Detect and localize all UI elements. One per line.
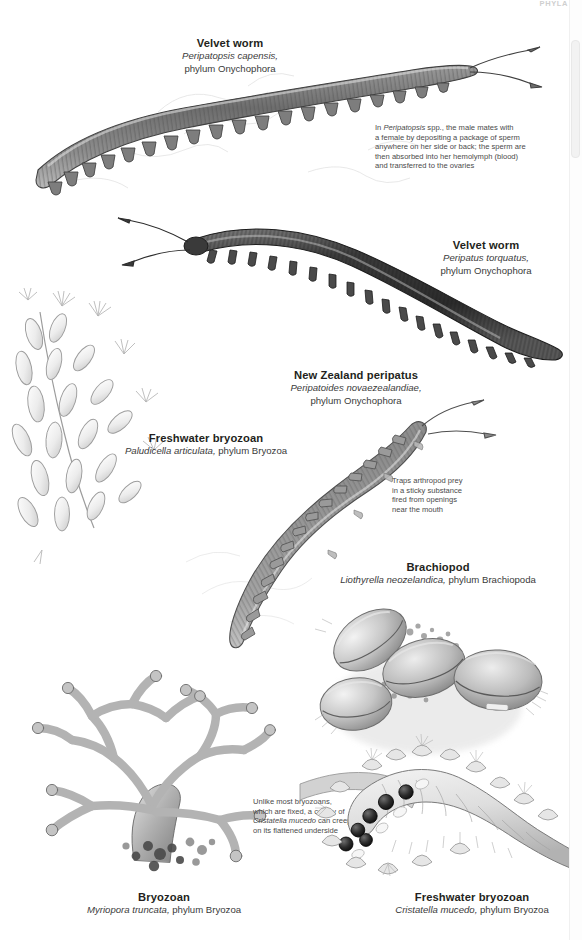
encyclopedia-page: PHYLA — [0, 0, 582, 940]
label-common-name: Freshwater bryozoan — [372, 890, 572, 904]
running-head: PHYLA — [478, 0, 568, 8]
annotation-line: near the mouth — [392, 505, 512, 515]
label-species: Cristatella mucedo, phylum Bryozoa — [372, 904, 572, 917]
annotation-peripatopsis-mating: In Peripatopsis spp., the male mates wit… — [375, 123, 535, 171]
annotation-line: In Peripatopsis spp., the male mates wit… — [375, 123, 535, 133]
label-common-name: New Zealand peripatus — [258, 368, 454, 382]
annotation-line: then absorbed into her hemolymph (blood) — [375, 152, 535, 162]
label-common-name: Velvet worm — [400, 238, 572, 252]
label-species: Liothyrella neozelandica, phylum Brachio… — [318, 574, 558, 587]
cristatella-illustration — [300, 736, 582, 886]
annotation-line: and transferred to the ovaries — [375, 161, 535, 171]
label-species: Peripatus torquatus, — [400, 252, 572, 265]
label-common-name: Bryozoan — [44, 890, 284, 904]
annotation-line: fired from openings — [392, 495, 512, 505]
annotation-line: Traps arthropod prey — [392, 476, 512, 486]
label-species: Myriopora truncata, phylum Bryozoa — [44, 904, 284, 917]
vertical-scrollbar[interactable] — [569, 0, 582, 940]
label-bryozoan-myriopora: Bryozoan Myriopora truncata, phylum Bryo… — [44, 890, 284, 917]
scrollbar-thumb[interactable] — [571, 40, 580, 158]
label-phylum: phylum Onychophora — [400, 265, 572, 278]
myriopora-illustration — [30, 660, 270, 880]
paludicella-illustration — [6, 292, 206, 542]
annotation-line: anywhere on her side or back; the sperm … — [375, 142, 535, 152]
annotation-line: a female by depositing a package of sper… — [375, 133, 535, 143]
label-phylum: phylum Onychophora — [112, 63, 348, 76]
label-velvet-worm-torquatus: Velvet worm Peripatus torquatus, phylum … — [400, 238, 572, 277]
label-velvet-worm-capensis: Velvet worm Peripatopsis capensis, phylu… — [112, 36, 348, 75]
annotation-slime-jets: Traps arthropod prey in a sticky substan… — [392, 476, 512, 514]
label-brachiopod: Brachiopod Liothyrella neozelandica, phy… — [318, 560, 558, 587]
label-common-name: Brachiopod — [318, 560, 558, 574]
label-species: Peripatopsis capensis, — [112, 50, 348, 63]
label-freshwater-bryozoan-cristatella: Freshwater bryozoan Cristatella mucedo, … — [372, 890, 572, 917]
label-species: Peripatoides novaezealandiae, — [258, 382, 454, 395]
label-common-name: Velvet worm — [112, 36, 348, 50]
annotation-line: in a sticky substance — [392, 486, 512, 496]
